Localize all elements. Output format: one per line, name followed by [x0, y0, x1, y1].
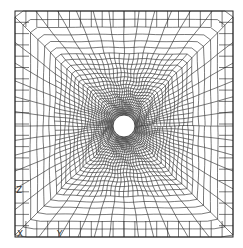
mesh-diagram: Z X Y	[0, 0, 243, 248]
axis-label-z: Z	[16, 185, 22, 195]
central-hole	[113, 115, 135, 137]
axis-label-x: X	[17, 229, 23, 239]
axis-label-y: Y	[56, 229, 63, 239]
